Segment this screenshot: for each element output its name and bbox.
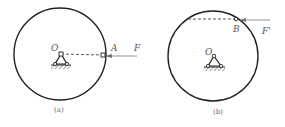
center-label: O (51, 43, 59, 53)
diagram-canvas: O A F (a) O B F' (b) (0, 0, 285, 127)
figure-caption: (a) (54, 106, 64, 114)
center-pin-icon (212, 54, 216, 58)
pin-support-icon (204, 56, 225, 71)
figure-b: O B F' (b) (168, 11, 271, 116)
point-label: B (232, 24, 240, 34)
center-label: O (205, 47, 213, 57)
radius-dashed-line (61, 54, 103, 55)
point-label: A (110, 43, 118, 53)
force-label: F (133, 43, 141, 53)
center-pin-icon (59, 52, 63, 56)
point-a-marker-icon (101, 53, 105, 57)
force-label: F' (261, 26, 271, 36)
figure-caption: (b) (213, 108, 223, 116)
point-b-marker-icon (234, 17, 238, 21)
figure-a: O A F (a) (14, 8, 141, 114)
